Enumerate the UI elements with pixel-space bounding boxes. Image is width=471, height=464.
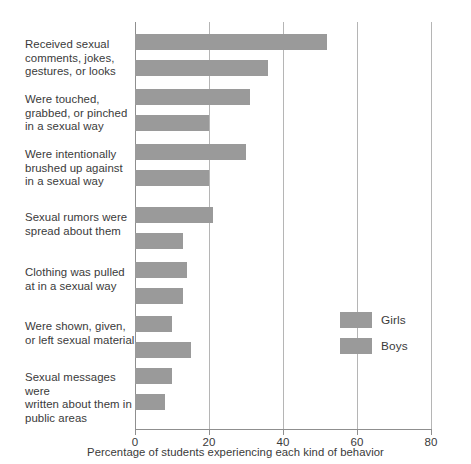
x-tick-0	[135, 429, 136, 435]
category-label-6-line3: public areas	[25, 412, 141, 426]
category-label-2-line3: in a sexual way	[25, 175, 133, 189]
category-label-0-line2: comments, jokes,	[25, 52, 133, 66]
category-label-0-line1: Received sexual	[25, 38, 133, 52]
legend-swatch-girls	[340, 312, 372, 328]
bar-boys-5	[135, 342, 191, 358]
x-tick-80	[431, 429, 432, 435]
x-axis-title: Percentage of students experiencing each…	[0, 446, 471, 458]
category-label-4-line2: at in a sexual way	[25, 280, 133, 294]
category-label-2: Were intentionally brushed up against in…	[25, 148, 133, 189]
category-label-0-line3: gestures, or looks	[25, 65, 133, 79]
bar-girls-3	[135, 207, 213, 223]
bar-chart: 0 20 40 60 80 Received sexual comments, …	[0, 0, 471, 464]
category-label-3: Sexual rumors were spread about them	[25, 211, 133, 238]
category-label-2-line1: Were intentionally	[25, 148, 133, 162]
bar-girls-6	[135, 368, 172, 384]
category-label-0: Received sexual comments, jokes, gesture…	[25, 38, 133, 79]
bar-boys-6	[135, 394, 165, 410]
gridline-40	[283, 22, 284, 429]
category-label-5: Were shown, given, or left sexual materi…	[25, 320, 141, 347]
bar-girls-4	[135, 262, 187, 278]
bar-boys-2	[135, 170, 209, 186]
bar-boys-3	[135, 233, 183, 249]
x-tick-40	[283, 429, 284, 435]
bar-girls-2	[135, 144, 246, 160]
bar-girls-1	[135, 89, 250, 105]
category-label-5-line2: or left sexual material	[25, 334, 141, 348]
bar-girls-5	[135, 316, 172, 332]
bar-boys-4	[135, 288, 183, 304]
bar-girls-0	[135, 34, 327, 50]
category-label-3-line2: spread about them	[25, 225, 133, 239]
category-label-6-line2: written about them in	[25, 398, 141, 412]
category-label-2-line2: brushed up against	[25, 162, 133, 176]
category-label-6-line1: Sexual messages were	[25, 371, 141, 398]
gridline-80	[431, 22, 432, 429]
category-label-1: Were touched, grabbed, or pinched in a s…	[25, 93, 133, 134]
legend-label-boys: Boys	[381, 339, 408, 353]
bar-boys-1	[135, 115, 209, 131]
category-label-1-line3: in a sexual way	[25, 120, 133, 134]
category-label-4-line1: Clothing was pulled	[25, 266, 133, 280]
category-label-3-line1: Sexual rumors were	[25, 211, 133, 225]
gridline-20	[209, 22, 210, 429]
category-label-4: Clothing was pulled at in a sexual way	[25, 266, 133, 293]
category-label-1-line2: grabbed, or pinched	[25, 107, 133, 121]
category-label-5-line1: Were shown, given,	[25, 320, 141, 334]
gridline-60	[357, 22, 358, 429]
legend-label-girls: Girls	[381, 313, 406, 327]
x-tick-20	[209, 429, 210, 435]
x-tick-60	[357, 429, 358, 435]
bar-boys-0	[135, 60, 268, 76]
category-label-1-line1: Were touched,	[25, 93, 133, 107]
category-label-6: Sexual messages were written about them …	[25, 371, 141, 425]
legend-swatch-boys	[340, 338, 372, 354]
